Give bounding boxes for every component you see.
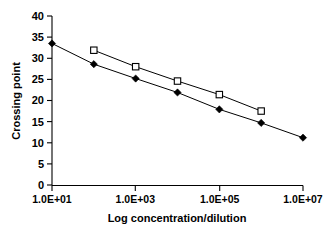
x-tick-label-1e7: 1.0E+07 — [283, 193, 323, 205]
y-tick-label-40: 40 — [32, 10, 44, 22]
data-point-filled-diamond-series-0 — [48, 40, 55, 47]
y-tick-label-15: 15 — [32, 116, 44, 128]
x-axis-title: Log concentration/dilution — [108, 212, 247, 224]
chart-plot-svg: Crossing point 40 35 30 25 20 15 10 5 0 — [0, 0, 336, 238]
data-point-open-square-series-1 — [132, 64, 138, 70]
y-tick-label-25: 25 — [32, 73, 44, 85]
x-tick-marks — [52, 186, 303, 192]
data-point-filled-diamond-series-4 — [216, 106, 223, 113]
data-point-filled-diamond-series-1 — [90, 61, 97, 68]
y-tick-label-5: 5 — [38, 158, 44, 170]
y-tick-labels: 40 35 30 25 20 15 10 5 0 — [32, 10, 44, 191]
y-tick-label-0: 0 — [38, 179, 44, 191]
y-tick-label-20: 20 — [32, 94, 44, 106]
data-point-open-square-series-3 — [216, 91, 222, 97]
data-point-filled-diamond-series-5 — [258, 119, 265, 126]
data-point-filled-diamond-series-3 — [174, 89, 181, 96]
y-tick-label-10: 10 — [32, 137, 44, 149]
data-point-filled-diamond-series-2 — [132, 75, 139, 82]
data-point-open-square-series-4 — [258, 108, 264, 114]
x-tick-label-1e1: 1.0E+01 — [32, 193, 72, 205]
y-tick-label-30: 30 — [32, 52, 44, 64]
x-tick-label-1e3: 1.0E+03 — [116, 193, 156, 205]
x-tick-label-1e5: 1.0E+05 — [200, 193, 240, 205]
data-point-open-square-series-0 — [91, 47, 97, 53]
series-layer — [48, 40, 306, 141]
x-tick-labels: 1.0E+01 1.0E+03 1.0E+05 1.0E+07 — [32, 193, 323, 205]
data-point-filled-diamond-series-6 — [299, 134, 306, 141]
data-point-open-square-series-2 — [174, 78, 180, 84]
chart-figure: Crossing point 40 35 30 25 20 15 10 5 0 — [0, 0, 336, 238]
y-axis-title: Crossing point — [10, 62, 22, 140]
y-tick-label-35: 35 — [32, 31, 44, 43]
